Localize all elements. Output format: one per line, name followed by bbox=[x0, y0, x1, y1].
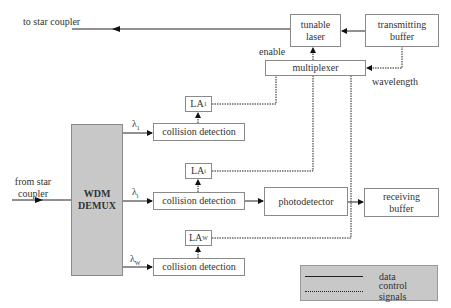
receiving-buffer-block: receivingbuffer bbox=[364, 188, 439, 217]
photodetector-block: photodetector bbox=[264, 187, 348, 216]
wavelength-line bbox=[367, 46, 402, 68]
lambda-i-label: λi bbox=[132, 186, 139, 202]
la-w-block: LAW bbox=[185, 230, 212, 246]
collision-detection-w-block: collision detection bbox=[153, 258, 245, 276]
la-1-block: LA1 bbox=[185, 96, 212, 112]
la1-to-mux-line bbox=[212, 75, 276, 104]
transmitting-buffer-block: transmittingbuffer bbox=[365, 14, 439, 47]
wdm-demux-block: WDMDEMUX bbox=[71, 124, 123, 276]
to-star-coupler-label: to star coupler bbox=[23, 16, 80, 28]
solid-line-sample bbox=[305, 276, 363, 277]
from-star-coupler-label: from star coupler bbox=[10, 176, 56, 200]
legend: data control signals bbox=[300, 265, 438, 301]
wavelength-label: wavelength bbox=[372, 76, 418, 88]
la-i-block: LAi bbox=[185, 163, 212, 179]
enable-label: enable bbox=[259, 46, 285, 58]
lambda-1-label: λ1 bbox=[132, 118, 140, 134]
from-star-coupler-line2: coupler bbox=[10, 188, 56, 200]
legend-control-label: control signals bbox=[379, 280, 437, 302]
collision-detection-i-block: collision detection bbox=[153, 192, 245, 210]
multiplexer-block: multiplexer bbox=[265, 60, 366, 76]
collision-detection-1-block: collision detection bbox=[153, 123, 245, 141]
tunable-laser-block: tunablelaser bbox=[290, 14, 341, 47]
lambda-w-label: λW bbox=[130, 253, 141, 269]
dotted-line-sample bbox=[305, 291, 363, 292]
legend-control-row: control signals bbox=[305, 284, 437, 298]
from-star-coupler-line1: from star bbox=[10, 176, 56, 188]
